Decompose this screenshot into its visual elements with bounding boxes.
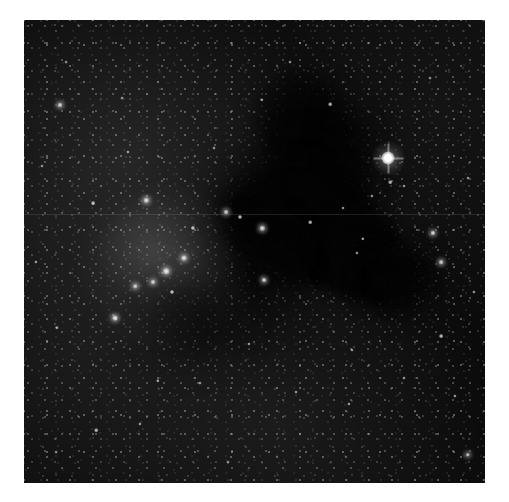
dark-nebula-lobe [306,151,366,205]
scan-seam-label: Plate scan seam line [0,0,1,1]
dark-nebula-lobe [161,298,231,354]
dark-nebula-label: Dark absorption nebula [0,0,1,1]
open-cluster-label: Open star cluster [0,0,1,1]
sky-field-image [24,20,485,483]
dominant-star-label: Bright foreground star [0,0,1,1]
dark-nebula-lobe [225,310,279,350]
figure-color-mode: grayscale [0,0,1,1]
scan-seam-line [24,214,485,215]
secondary-dark-patch-label: Secondary dust patch [0,0,1,1]
dark-nebula-lobe [342,108,394,156]
astronomical-plate-figure: Star field with dark nebula and open clu… [0,0,509,502]
dark-nebula-lobe [231,259,293,313]
dark-nebula-lobe [375,283,421,317]
figure-title: Star field with dark nebula and open clu… [0,0,1,1]
